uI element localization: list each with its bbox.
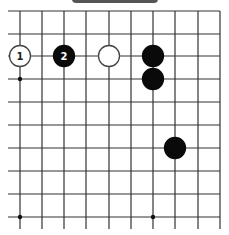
black-stone (143, 46, 164, 67)
board-intersection[interactable] (210, 24, 229, 44)
board-intersection[interactable] (143, 92, 163, 112)
board-intersection[interactable] (10, 24, 30, 44)
board-intersection[interactable] (10, 115, 30, 135)
board-intersection[interactable] (210, 115, 229, 135)
board-intersection[interactable] (165, 46, 185, 66)
board-intersection[interactable] (99, 69, 119, 89)
board-intersection[interactable] (54, 138, 74, 158)
board-intersection[interactable] (10, 184, 30, 204)
board-intersection[interactable] (76, 207, 96, 227)
board-intersection[interactable] (188, 161, 208, 181)
board-intersection[interactable] (10, 1, 30, 21)
board-intersection[interactable] (54, 92, 74, 112)
board-intersection[interactable] (121, 69, 141, 89)
board-intersection[interactable] (76, 115, 96, 135)
board-intersection[interactable] (188, 207, 208, 227)
board-intersection[interactable] (165, 184, 185, 204)
board-intersection[interactable] (143, 24, 163, 44)
board-intersection[interactable] (54, 161, 74, 181)
board-intersection[interactable] (54, 1, 74, 21)
board-intersection[interactable] (143, 115, 163, 135)
board-intersection[interactable] (121, 1, 141, 21)
board-intersection[interactable] (188, 1, 208, 21)
board-intersection[interactable] (210, 207, 229, 227)
board-intersection[interactable] (10, 207, 30, 227)
board-intersection[interactable] (188, 46, 208, 66)
board-intersection[interactable] (210, 1, 229, 21)
board-intersection[interactable] (54, 207, 74, 227)
board-intersection[interactable] (32, 207, 52, 227)
board-intersection[interactable] (210, 138, 229, 158)
board-intersection[interactable] (210, 161, 229, 181)
board-intersection[interactable] (165, 69, 185, 89)
board-intersection[interactable] (76, 46, 96, 66)
board-intersection[interactable] (99, 207, 119, 227)
board-intersection[interactable] (54, 115, 74, 135)
board-intersection[interactable] (32, 24, 52, 44)
board-intersection[interactable] (121, 207, 141, 227)
board-intersection[interactable] (143, 138, 163, 158)
board-intersection[interactable] (32, 69, 52, 89)
board-intersection[interactable] (165, 161, 185, 181)
board-intersection[interactable] (188, 115, 208, 135)
board-intersection[interactable] (32, 1, 52, 21)
board-intersection[interactable] (165, 92, 185, 112)
board-intersection[interactable] (188, 24, 208, 44)
board-intersection[interactable] (76, 69, 96, 89)
board-intersection[interactable] (32, 115, 52, 135)
move-number-label: 1 (17, 51, 24, 62)
board-intersection[interactable] (10, 138, 30, 158)
board-intersection[interactable] (188, 184, 208, 204)
board-intersection[interactable] (32, 161, 52, 181)
board-intersection[interactable] (121, 138, 141, 158)
board-intersection[interactable] (210, 92, 229, 112)
board-intersection[interactable] (76, 138, 96, 158)
board-intersection[interactable] (99, 92, 119, 112)
board-intersection[interactable] (165, 115, 185, 135)
board-intersection[interactable] (10, 161, 30, 181)
board-intersection[interactable] (210, 46, 229, 66)
board-intersection[interactable] (99, 161, 119, 181)
board-intersection[interactable] (76, 161, 96, 181)
board-intersection[interactable] (76, 92, 96, 112)
board-intersection[interactable] (188, 138, 208, 158)
board-intersection[interactable] (99, 184, 119, 204)
board-intersection[interactable] (99, 1, 119, 21)
board-intersection[interactable] (32, 46, 52, 66)
board-intersection[interactable] (10, 92, 30, 112)
board-intersection[interactable] (54, 184, 74, 204)
board-intersection[interactable] (121, 161, 141, 181)
board-intersection[interactable] (188, 69, 208, 89)
board-intersection[interactable] (121, 184, 141, 204)
black-stone (165, 138, 186, 159)
board-intersection[interactable] (210, 69, 229, 89)
board-intersection[interactable] (143, 1, 163, 21)
board-intersection[interactable] (121, 115, 141, 135)
board-intersection[interactable] (76, 24, 96, 44)
move-number-label: 2 (61, 51, 68, 62)
board-intersection[interactable] (32, 138, 52, 158)
white-stone (99, 46, 120, 67)
board-intersection[interactable] (121, 92, 141, 112)
board-intersection[interactable] (54, 69, 74, 89)
board-intersection[interactable] (54, 24, 74, 44)
board-intersection[interactable] (99, 115, 119, 135)
board-intersection[interactable] (165, 207, 185, 227)
board-intersection[interactable] (210, 184, 229, 204)
board-intersection[interactable] (32, 92, 52, 112)
board-intersection[interactable] (143, 184, 163, 204)
board-intersection[interactable] (188, 92, 208, 112)
board-intersection[interactable] (121, 46, 141, 66)
board-intersection[interactable] (76, 1, 96, 21)
board-intersection[interactable] (165, 1, 185, 21)
board-intersection[interactable] (99, 24, 119, 44)
board-intersection[interactable] (76, 184, 96, 204)
board-intersection[interactable] (99, 138, 119, 158)
board-intersection[interactable] (32, 184, 52, 204)
board-intersection[interactable] (165, 24, 185, 44)
board-intersection[interactable] (143, 161, 163, 181)
board-intersection[interactable] (121, 24, 141, 44)
go-board[interactable]: 12 (0, 0, 229, 235)
board-intersection[interactable] (143, 207, 163, 227)
board-intersection[interactable] (10, 69, 30, 89)
